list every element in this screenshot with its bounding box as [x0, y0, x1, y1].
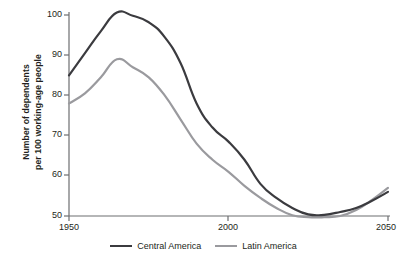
legend-swatch-central-america: [110, 245, 132, 247]
series-line-latin-america: [69, 59, 388, 218]
legend-label-latin-america: Latin America: [242, 241, 297, 251]
axes: [64, 12, 390, 221]
x-tick-label-2050: 2050: [366, 222, 406, 232]
y-tick-label-100: 100: [38, 9, 62, 19]
x-tick-label-1950: 1950: [49, 222, 89, 232]
y-tick-label-90: 90: [38, 49, 62, 59]
y-axis-label-line-2: per 100 working-age people: [32, 12, 44, 212]
legend-swatch-latin-america: [215, 245, 237, 247]
legend-label-central-america: Central America: [137, 241, 201, 251]
chart-legend: Central America Latin America: [0, 241, 407, 251]
legend-item-central-america: Central America: [110, 241, 201, 251]
y-tick-label-70: 70: [38, 129, 62, 139]
legend-item-latin-america: Latin America: [215, 241, 297, 251]
y-tick-label-50: 50: [38, 210, 62, 220]
x-tick-label-2000: 2000: [208, 222, 248, 232]
y-axis-label: Number of dependents per 100 working-age…: [20, 12, 44, 212]
y-tick-label-60: 60: [38, 169, 62, 179]
y-axis-label-line-1: Number of dependents: [20, 12, 32, 212]
chart-figure: Number of dependents per 100 working-age…: [0, 0, 407, 264]
series-group: [69, 11, 388, 217]
series-line-central-america: [69, 11, 388, 215]
y-tick-label-80: 80: [38, 89, 62, 99]
